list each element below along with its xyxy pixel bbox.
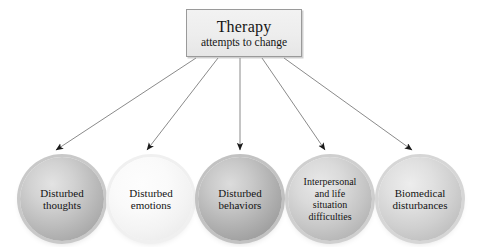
therapy-source-box: Therapy attempts to change xyxy=(186,9,302,57)
arrow-to-biomedical xyxy=(284,58,412,150)
diagram-canvas: Therapy attempts to change Disturbed tho… xyxy=(0,0,485,247)
arrow-to-disturbed-emotions xyxy=(147,58,218,150)
arrow-to-interpersonal-life xyxy=(262,58,325,150)
therapy-box-title: Therapy xyxy=(217,18,272,35)
node-label: Biomedical disturbances xyxy=(387,187,454,212)
node-label: Disturbed thoughts xyxy=(34,187,89,212)
node-disturbed-thoughts: Disturbed thoughts xyxy=(20,157,104,241)
node-biomedical: Biomedical disturbances xyxy=(378,157,462,241)
node-disturbed-emotions: Disturbed emotions xyxy=(109,157,193,241)
node-interpersonal-life: Interpersonal and life situation difficu… xyxy=(288,157,372,241)
node-disturbed-behaviors: Disturbed behaviors xyxy=(198,157,282,241)
arrow-to-disturbed-thoughts xyxy=(56,58,196,150)
node-label: Disturbed behaviors xyxy=(212,187,267,212)
therapy-box-subtitle: attempts to change xyxy=(201,36,287,49)
node-label: Disturbed emotions xyxy=(123,187,178,212)
node-label: Interpersonal and life situation difficu… xyxy=(298,176,363,222)
